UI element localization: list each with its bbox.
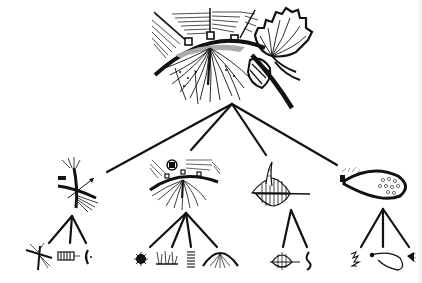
branch-1-edges	[49, 216, 86, 243]
open-teardrop-loop-icon	[370, 253, 403, 270]
branch-2-edges	[150, 213, 217, 247]
tree-diagram	[0, 0, 422, 283]
coil-spring-icon	[187, 252, 195, 267]
root-edges	[107, 104, 337, 172]
branch-3-edges	[283, 210, 307, 247]
coiled-segment-icon	[58, 252, 80, 260]
dotted-teardrop-sac-icon	[340, 167, 406, 198]
tufted-row-icon	[156, 251, 178, 264]
hatched-dome-with-roots-icon	[150, 160, 220, 210]
crescent-arc-icon	[86, 250, 92, 264]
dark-star-node-icon	[134, 252, 148, 266]
crossing-fibers-with-arrow-icon	[58, 157, 98, 212]
hemisphere-with-fan-and-branching-structure-icon	[152, 8, 312, 108]
striped-spindle-with-spike-icon	[252, 162, 310, 206]
edge-shading	[416, 0, 422, 283]
wavy-strand-icon	[307, 252, 311, 270]
scribble-cluster-icon	[351, 252, 359, 266]
star-burst-junction-icon	[26, 243, 52, 270]
branch-4-edges	[361, 209, 409, 247]
hatched-dome-icon	[203, 253, 238, 268]
striped-spindle-icon	[270, 252, 300, 270]
